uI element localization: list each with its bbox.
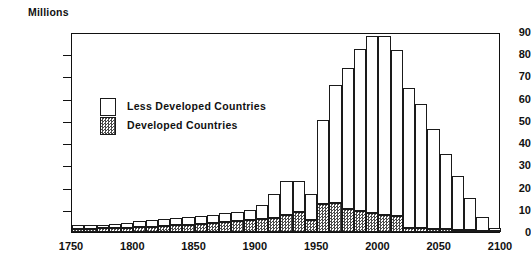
bar-segment-developed bbox=[366, 213, 378, 232]
bar-column bbox=[378, 36, 390, 232]
bar-column bbox=[121, 223, 133, 232]
bar-column bbox=[109, 224, 121, 232]
bar-column bbox=[195, 216, 207, 232]
bar-column bbox=[317, 120, 329, 232]
legend-label-developed: Developed Countries bbox=[127, 119, 238, 131]
bar-segment-less-developed bbox=[378, 36, 390, 215]
bar-segment-less-developed bbox=[231, 212, 243, 222]
bar-column bbox=[305, 194, 317, 232]
bar-segment-developed bbox=[329, 203, 341, 232]
bar-segment-less-developed bbox=[476, 217, 488, 230]
bar-segment-developed bbox=[305, 220, 317, 232]
bar-segment-developed bbox=[317, 204, 329, 232]
bar-column bbox=[391, 50, 403, 232]
bar-column bbox=[207, 215, 219, 232]
bar-column bbox=[72, 225, 84, 232]
bar-column bbox=[366, 36, 378, 232]
bar-segment-developed bbox=[280, 215, 292, 232]
bar-segment-less-developed bbox=[317, 120, 329, 204]
x-axis-tick-label: 1850 bbox=[181, 240, 205, 252]
bar-segment-developed bbox=[354, 211, 366, 232]
bar-segment-developed bbox=[72, 229, 84, 232]
bar-segment-less-developed bbox=[366, 36, 378, 213]
bar-segment-less-developed bbox=[207, 215, 219, 223]
bar-column bbox=[244, 210, 256, 232]
y-axis-tick bbox=[63, 144, 71, 145]
x-axis-tick-label: 2050 bbox=[426, 240, 450, 252]
bar-segment-less-developed bbox=[280, 181, 292, 215]
bar-segment-developed bbox=[268, 218, 280, 232]
bar-segment-developed bbox=[440, 229, 452, 232]
bar-segment-developed bbox=[121, 228, 133, 232]
bar-column bbox=[403, 88, 415, 232]
bar-column bbox=[84, 225, 96, 232]
chart-container: Millions 0102030405060708090 17501800185… bbox=[0, 0, 531, 275]
bar-column bbox=[293, 181, 305, 232]
bar-column bbox=[489, 228, 501, 232]
bar-segment-developed bbox=[391, 216, 403, 232]
y-axis-tick bbox=[63, 189, 71, 190]
legend-swatch-developed bbox=[100, 117, 116, 135]
bar-column bbox=[329, 85, 341, 232]
bar-column bbox=[440, 154, 452, 232]
y-axis-tick bbox=[63, 55, 71, 56]
bar-segment-less-developed bbox=[158, 219, 170, 226]
bar-segment-less-developed bbox=[305, 194, 317, 220]
bar-segment-developed bbox=[109, 228, 121, 232]
bar-segment-less-developed bbox=[427, 129, 439, 229]
x-axis-tick-label: 1950 bbox=[304, 240, 328, 252]
bar-column bbox=[182, 217, 194, 232]
y-axis-tick bbox=[63, 77, 71, 78]
bar-segment-less-developed bbox=[452, 176, 464, 229]
bar-segment-less-developed bbox=[342, 68, 354, 209]
bar-segment-less-developed bbox=[195, 216, 207, 224]
bar-segment-developed bbox=[293, 212, 305, 232]
bar-segment-developed bbox=[378, 215, 390, 232]
bar-segment-less-developed bbox=[464, 198, 476, 230]
x-axis-tick-label: 1750 bbox=[59, 240, 83, 252]
bar-column bbox=[464, 198, 476, 232]
bar-segment-developed bbox=[244, 220, 256, 232]
bar-column bbox=[452, 176, 464, 232]
bar-segment-developed bbox=[97, 228, 109, 232]
bar-segment-developed bbox=[195, 224, 207, 232]
y-axis-tick bbox=[63, 166, 71, 167]
bar-segment-less-developed bbox=[293, 181, 305, 212]
bar-segment-developed bbox=[219, 222, 231, 232]
x-axis-tick-label: 2100 bbox=[488, 240, 512, 252]
bar-segment-less-developed bbox=[146, 220, 158, 227]
y-axis-tick bbox=[63, 122, 71, 123]
bar-column bbox=[219, 213, 231, 232]
bar-column bbox=[146, 220, 158, 232]
bar-segment-developed bbox=[342, 209, 354, 232]
bar-series-group bbox=[72, 34, 499, 232]
legend-swatch-less-developed bbox=[100, 98, 116, 116]
bar-segment-developed bbox=[84, 229, 96, 232]
bar-segment-developed bbox=[158, 226, 170, 232]
bar-segment-less-developed bbox=[440, 154, 452, 230]
bar-column bbox=[476, 217, 488, 232]
bar-segment-less-developed bbox=[329, 85, 341, 203]
x-axis-tick-label: 1900 bbox=[243, 240, 267, 252]
bar-column bbox=[280, 181, 292, 232]
bar-column bbox=[158, 219, 170, 232]
bar-column bbox=[354, 49, 366, 232]
bar-segment-developed bbox=[489, 230, 501, 232]
bar-column bbox=[256, 205, 268, 232]
bar-column bbox=[231, 212, 243, 232]
bar-segment-less-developed bbox=[182, 217, 194, 225]
bar-segment-less-developed bbox=[268, 194, 280, 218]
bar-column bbox=[415, 104, 427, 232]
bar-segment-developed bbox=[476, 230, 488, 232]
x-axis-tick-label: 1800 bbox=[120, 240, 144, 252]
bar-column bbox=[427, 129, 439, 232]
bar-segment-less-developed bbox=[256, 205, 268, 219]
bar-segment-developed bbox=[415, 228, 427, 232]
bar-segment-developed bbox=[170, 225, 182, 232]
bar-segment-developed bbox=[427, 229, 439, 232]
y-axis-title: Millions bbox=[28, 6, 69, 18]
bar-segment-developed bbox=[256, 219, 268, 232]
bar-segment-less-developed bbox=[244, 210, 256, 221]
bar-segment-developed bbox=[231, 221, 243, 232]
bar-segment-less-developed bbox=[170, 218, 182, 226]
